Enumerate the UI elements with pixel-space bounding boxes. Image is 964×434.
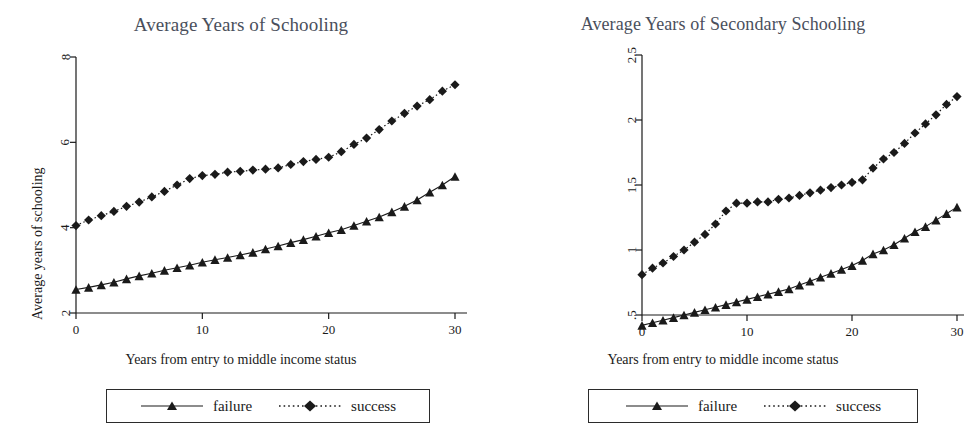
legend-right: failure success [588, 389, 918, 423]
legend-label-failure-right: failure [698, 398, 737, 415]
diamond-dotted-line-icon [278, 399, 342, 413]
svg-text:6: 6 [58, 139, 73, 146]
svg-text:1.5: 1.5 [624, 177, 639, 193]
triangle-solid-line-icon [625, 399, 689, 413]
legend-entry-success-left: success [278, 398, 396, 415]
plot-area-left: 24680102030 [0, 0, 482, 380]
svg-text:30: 30 [951, 324, 964, 339]
legend-entry-success-right: success [763, 398, 881, 415]
svg-text:2.5: 2.5 [624, 47, 639, 63]
panel-average-years-of-schooling: Average Years of Schooling Average years… [0, 0, 482, 434]
svg-text:20: 20 [322, 322, 335, 337]
svg-text:4: 4 [58, 224, 73, 231]
svg-text:20: 20 [846, 324, 859, 339]
svg-text:1: 1 [624, 247, 639, 254]
panel-average-years-of-secondary-schooling: Average Years of Secondary Schooling Ave… [482, 0, 964, 434]
svg-text:30: 30 [449, 322, 462, 337]
plot-svg-left: 24680102030 [0, 0, 482, 380]
legend-entry-failure-right: failure [625, 398, 737, 415]
legend-label-success-right: success [836, 398, 881, 415]
svg-text:10: 10 [196, 322, 209, 337]
diamond-dotted-line-icon [763, 399, 827, 413]
legend-left: failure success [106, 389, 430, 423]
svg-text:2: 2 [624, 117, 639, 124]
plot-area-right: .511.522.50102030 [482, 0, 964, 380]
svg-text:0: 0 [73, 322, 80, 337]
triangle-solid-line-icon [140, 399, 204, 413]
svg-text:10: 10 [741, 324, 754, 339]
svg-text:.5: .5 [624, 310, 639, 320]
svg-text:2: 2 [58, 310, 73, 317]
figure-two-panel-chart: Average Years of Schooling Average years… [0, 0, 964, 434]
legend-entry-failure-left: failure [140, 398, 252, 415]
legend-label-success-left: success [351, 398, 396, 415]
svg-text:8: 8 [58, 54, 73, 61]
plot-svg-right: .511.522.50102030 [482, 0, 964, 380]
legend-label-failure-left: failure [213, 398, 252, 415]
